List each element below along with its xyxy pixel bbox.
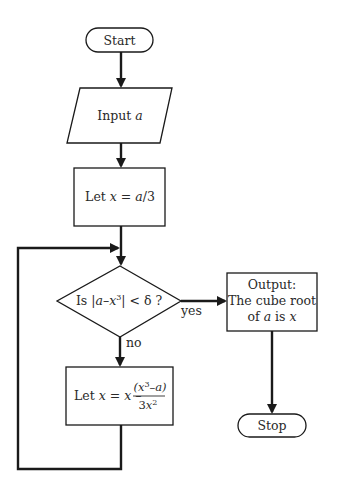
decision-node: Is |a–x3| < δ ? xyxy=(57,266,181,337)
output-node: Output: The cube root of a is x xyxy=(227,273,317,331)
input-label: Input a xyxy=(97,108,143,123)
no-label: no xyxy=(126,335,142,350)
stop-node: Stop xyxy=(238,414,306,437)
output-line2: The cube root xyxy=(228,293,316,308)
update-node: Let x = x – (x3–a) 3x2 xyxy=(66,367,173,425)
update-numerator: (x3–a) xyxy=(133,380,166,394)
stop-label: Stop xyxy=(257,418,286,433)
update-label: Let x = x – xyxy=(74,388,141,403)
start-node: Start xyxy=(86,28,153,52)
flowchart: Start Input a Let x = a/3 Is |a–x3| < δ … xyxy=(0,0,339,492)
input-node: Input a xyxy=(67,88,172,143)
init-label: Let x = a/3 xyxy=(85,189,155,204)
init-node: Let x = a/3 xyxy=(74,168,165,226)
output-line1: Output: xyxy=(248,277,297,292)
yes-label: yes xyxy=(180,303,202,318)
start-label: Start xyxy=(103,33,135,48)
output-line3: of a is x xyxy=(247,309,296,324)
